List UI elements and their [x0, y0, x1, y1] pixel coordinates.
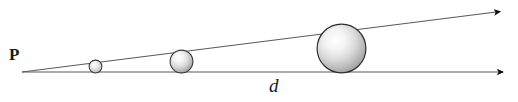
small-sphere: [89, 60, 102, 73]
spheres-group: [89, 24, 366, 73]
figure-canvas: [0, 0, 518, 102]
large-sphere: [317, 24, 366, 73]
distance-axis-label: d: [269, 76, 279, 95]
figure-root: P d: [0, 0, 518, 102]
observer-point-label: P: [9, 46, 19, 63]
medium-sphere: [170, 50, 193, 73]
